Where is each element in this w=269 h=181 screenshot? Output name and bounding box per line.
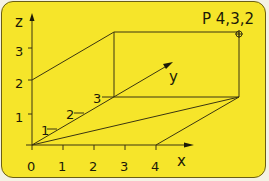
x-tick-0: 0 — [27, 159, 35, 174]
x-axis-label: x — [177, 152, 186, 170]
z-tick-3: 3 — [15, 44, 23, 59]
z-arrow-icon — [30, 13, 35, 21]
point-p-label: P 4,3,2 — [202, 10, 254, 28]
coordinate-diagram: z 3 2 1 0 1 2 3 4 x 1 2 3 y P 4,3,2 — [0, 0, 269, 181]
projection-line — [32, 97, 239, 145]
y-tick-1: 1 — [41, 123, 49, 138]
y-axis-label: y — [169, 68, 178, 86]
x-tick-3: 3 — [120, 159, 128, 174]
z-tick-2: 2 — [15, 76, 23, 91]
x-tick-4: 4 — [151, 159, 159, 174]
x-tick-2: 2 — [89, 159, 97, 174]
projection-line — [32, 32, 114, 80]
y-tick-3: 3 — [93, 91, 101, 106]
z-tick-1: 1 — [15, 110, 23, 125]
z-axis-label: z — [15, 13, 23, 31]
x-tick-1: 1 — [58, 159, 66, 174]
x-arrow-icon — [184, 143, 194, 148]
y-tick-2: 2 — [66, 107, 74, 122]
projection-line — [156, 97, 239, 145]
